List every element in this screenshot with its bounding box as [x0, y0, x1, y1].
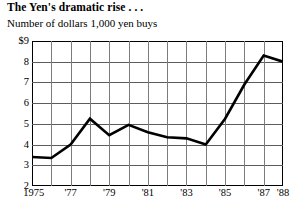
- chart-container: The Yen's dramatic rise . . . Number of …: [0, 0, 295, 203]
- chart-subtitle: Number of dollars 1,000 yen buys: [7, 17, 157, 29]
- y-axis-tick-label: 5: [24, 119, 29, 130]
- x-axis-tick-label: 1975: [23, 188, 44, 199]
- x-axis-tick-label: '83: [180, 188, 192, 199]
- x-axis-tick-label: '77: [64, 188, 76, 199]
- x-axis-tick-label: '87: [257, 188, 269, 199]
- y-axis-tick-label: 8: [24, 56, 29, 67]
- y-axis-tick-label: 4: [24, 139, 29, 150]
- x-axis-tick-label: '81: [142, 188, 154, 199]
- plot-area: [32, 41, 283, 186]
- y-axis-tick-label: $9: [19, 36, 30, 47]
- series-polyline: [32, 56, 283, 159]
- y-axis-labels: 2345678$9: [0, 41, 29, 186]
- x-axis-tick-label: '85: [219, 188, 231, 199]
- data-series-line: [32, 41, 283, 186]
- x-axis-tick-label: '79: [103, 188, 115, 199]
- x-axis-tick-label: '88: [277, 188, 289, 199]
- x-axis-labels: 1975'77'79'81'83'85'87'88: [0, 188, 295, 202]
- chart-title: The Yen's dramatic rise . . .: [7, 1, 143, 13]
- y-axis-tick-label: 7: [24, 77, 29, 88]
- y-axis-tick-label: 6: [24, 98, 29, 109]
- y-axis-tick-label: 3: [24, 160, 29, 171]
